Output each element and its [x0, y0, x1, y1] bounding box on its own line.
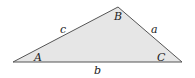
side-label-a: a: [151, 23, 158, 36]
vertex-label-a: A: [33, 51, 42, 64]
vertex-label-c: C: [157, 51, 166, 64]
triangle-diagram: A B C c a b: [0, 0, 195, 78]
side-label-b: b: [94, 64, 101, 77]
side-label-c: c: [60, 23, 66, 36]
vertex-label-b: B: [113, 10, 122, 23]
